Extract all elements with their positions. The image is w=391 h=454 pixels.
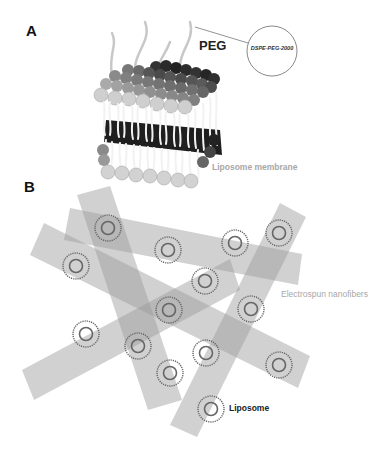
electrospun-nanofibers bbox=[22, 186, 310, 437]
dspe-peg-inset-circle bbox=[247, 26, 297, 76]
peg-label: PEG bbox=[199, 38, 226, 53]
dspe-peg-label: DSPE-PEG-2000 bbox=[247, 45, 297, 51]
nanofibers-label: Electrospun nanofibers bbox=[281, 289, 368, 299]
panel-a-label: A bbox=[26, 22, 37, 39]
liposome-label: Liposome bbox=[229, 403, 269, 413]
figure-graphics bbox=[0, 0, 391, 454]
panel-b-label: B bbox=[24, 178, 35, 195]
liposome-membrane-label: Liposome membrane bbox=[212, 162, 298, 172]
